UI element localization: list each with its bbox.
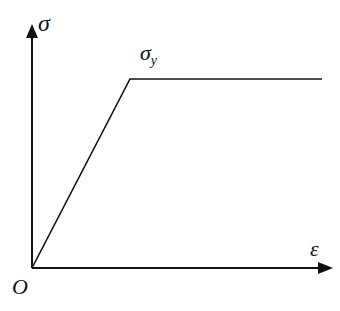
y-axis (26, 24, 38, 268)
y-axis-label: σ (38, 10, 50, 37)
yield-stress-label: σy (140, 40, 157, 69)
stress-strain-diagram (0, 0, 340, 311)
x-axis-label: ε (310, 236, 319, 262)
x-axis (32, 262, 333, 274)
origin-label: O (12, 274, 28, 300)
y-axis-arrow-icon (26, 24, 38, 38)
yield-subscript: y (151, 53, 157, 68)
stress-strain-curve (32, 79, 322, 268)
x-axis-arrow-icon (318, 262, 333, 274)
yield-symbol: σ (140, 40, 151, 65)
